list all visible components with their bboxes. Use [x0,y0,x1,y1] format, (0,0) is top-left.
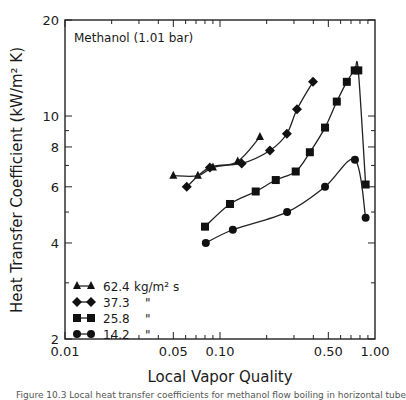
square-marker [226,200,234,208]
square-icon [87,314,95,322]
triangle-marker [256,132,264,140]
circle-marker [283,208,291,216]
square-marker [272,176,280,184]
triangle-icon [73,281,81,289]
x-tick-label: 0.10 [206,344,235,359]
legend-item: 37.3" [72,296,151,310]
legend: 62.4kg/m² s37.3"25.8"14.2" [72,280,179,342]
square-icon [73,314,81,322]
y-tick-label: 10 [42,109,59,124]
diamond-marker [265,145,275,155]
y-tick-label: 8 [51,140,59,155]
circle-marker [362,214,370,222]
y-tick-label: 2 [51,332,59,347]
square-marker [343,78,351,86]
square-marker [252,187,260,195]
figure-caption: Figure 10.3 Local heat transfer coeffici… [16,390,406,400]
square-marker [333,98,341,106]
circle-marker [202,239,210,247]
triangle-marker [169,171,177,179]
axis-ticks: 0.010.050.100.501.0024681020 [42,13,389,359]
x-tick-label: 0.50 [314,344,343,359]
legend-value: 25.8 [103,312,130,326]
legend-value: 62.4 [103,280,130,294]
square-marker [354,66,362,74]
circle-marker [351,156,359,164]
legend-unit: " [145,296,151,310]
legend-unit: kg/m² s [134,280,179,294]
x-axis-title: Local Vapor Quality [147,368,292,386]
diamond-icon [72,297,82,307]
y-tick-label: 4 [51,236,59,251]
triangle-icon [87,281,95,289]
diamond-marker [292,104,302,114]
legend-value: 37.3 [103,296,130,310]
x-tick-label: 1.00 [361,344,390,359]
circle-icon [87,330,95,338]
square-marker [321,124,329,132]
square-marker [362,181,370,189]
legend-item: 62.4kg/m² s [73,280,179,294]
circle-marker [229,226,237,234]
data-series [169,62,369,247]
legend-item: 25.8" [73,312,151,326]
x-tick-label: 0.05 [159,344,188,359]
circle-marker [321,183,329,191]
y-axis-title: Heat Transfer Coefficient (kW/m² K) [8,47,26,313]
diamond-marker [308,77,318,87]
chart-annotation: Methanol (1.01 bar) [74,31,193,45]
series-square [201,62,370,231]
diamond-marker [282,129,292,139]
series-triangle [169,132,264,179]
legend-unit: " [145,312,151,326]
square-marker [292,168,300,176]
diamond-icon [86,297,96,307]
y-tick-label: 20 [42,13,59,28]
legend-unit: " [145,328,151,342]
y-tick-label: 6 [51,180,59,195]
legend-value: 14.2 [103,328,130,342]
square-marker [306,148,314,156]
circle-icon [73,330,81,338]
square-marker [201,223,209,231]
